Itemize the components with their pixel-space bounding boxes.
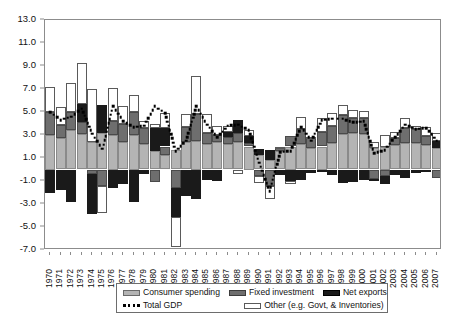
gdp-line-dot	[107, 122, 110, 125]
gdp-line-layer	[45, 20, 440, 248]
gdp-line-dot	[83, 114, 86, 117]
x-axis-tick-mark	[101, 252, 102, 255]
gdp-line-dot	[201, 116, 204, 119]
gdp-line-dot	[199, 112, 202, 115]
gdp-line-dot	[294, 138, 297, 141]
gdp-line-dot	[315, 129, 318, 132]
x-axis-tick-mark	[436, 252, 437, 255]
gdp-line-dot	[129, 124, 132, 127]
gdp-line-dot	[147, 117, 150, 120]
gdp-line-dot	[86, 122, 89, 125]
gdp-line-dot	[186, 136, 189, 139]
gdp-line-dot	[157, 107, 160, 110]
legend-row-1: Consumer spending Fixed investment Net e…	[121, 286, 383, 299]
legend-item-total-gdp: Total GDP	[123, 301, 182, 310]
gdp-line-dot	[296, 134, 299, 137]
gdp-line-dot	[188, 128, 191, 131]
gdp-line-dot	[348, 120, 351, 123]
gdp-line-dot	[415, 128, 418, 131]
gdp-line-dot	[171, 137, 174, 140]
legend-label-other: Other (e.g. Govt, & Inventories)	[264, 301, 383, 310]
gdp-line-dot	[111, 109, 114, 112]
gdp-line-dot	[143, 125, 146, 128]
gdp-line-dot	[302, 129, 305, 132]
fixed-investment-swatch-icon	[229, 290, 246, 296]
x-axis-tick-mark	[49, 252, 50, 255]
gdp-line-dot	[380, 150, 383, 153]
gdp-line-dot	[167, 125, 170, 128]
gdp-line-dot	[341, 118, 344, 121]
x-axis-tick-mark	[363, 252, 364, 255]
gdp-line-dot	[182, 142, 185, 145]
x-axis-tick-mark	[415, 252, 416, 255]
gdp-line-dot	[345, 119, 348, 122]
gdp-line-dot	[408, 125, 411, 128]
gdp-line-dot	[133, 126, 136, 129]
gdp-line-dot	[435, 139, 438, 142]
gdp-line-dot	[126, 122, 129, 125]
gdp-line-dot	[153, 105, 156, 108]
gdp-line-dot	[244, 127, 247, 130]
gdp-line-dot	[278, 155, 281, 158]
x-axis-tick-mark	[70, 252, 71, 255]
y-axis-tick-label: 1.0	[0, 152, 36, 162]
gdp-line-dot	[402, 127, 405, 130]
gdp-line-dot	[418, 128, 421, 131]
gdp-line-dot	[310, 139, 313, 142]
gdp-line-dot	[255, 153, 258, 156]
gdp-line-dot	[404, 123, 407, 126]
gdp-line-dot	[221, 130, 224, 133]
gdp-line-dot	[139, 125, 142, 128]
gdp-line-dot	[273, 174, 276, 177]
y-axis-tick-label: 3.0	[0, 129, 36, 139]
legend-item-net-exports: Net exports	[323, 288, 387, 297]
gdp-line-dot	[268, 190, 271, 193]
gdp-line-dot	[224, 127, 227, 130]
gdp-line-dot	[194, 109, 197, 112]
gdp-line-dot	[275, 167, 278, 170]
gdp-line-dot	[362, 120, 365, 123]
x-axis-tick-mark	[195, 252, 196, 255]
x-axis-tick-mark	[248, 252, 249, 255]
x-axis-tick-mark	[352, 252, 353, 255]
gdp-line-dot	[422, 127, 425, 130]
gdp-line-dot	[216, 136, 219, 139]
gdp-line-dot	[151, 109, 154, 112]
legend-item-fixed-investment: Fixed investment	[229, 288, 314, 297]
gdp-line-dot	[136, 125, 139, 128]
gdp-line-dot	[104, 135, 107, 138]
gdp-line-dot	[373, 152, 376, 155]
gdp-line-dot	[106, 126, 109, 129]
y-axis-tick-label: -1.0	[0, 175, 36, 185]
y-axis-tick-label: 5.0	[0, 106, 36, 116]
gdp-line-dot	[66, 116, 69, 119]
x-axis-tick-label: 1973	[76, 269, 85, 288]
gdp-line-dot	[293, 142, 296, 145]
gdp-line-dot	[276, 163, 279, 166]
gdp-line-dot	[99, 144, 102, 147]
gdp-line-dot	[383, 149, 386, 152]
gdp-line-dot	[376, 151, 379, 154]
gdp-line-dot	[277, 159, 280, 162]
x-axis-tick-mark	[404, 252, 405, 255]
y-axis-tick-label: 13.0	[0, 14, 36, 24]
x-axis-tick-label: 2005	[410, 269, 419, 288]
x-axis-tick-label: 1970	[45, 269, 54, 288]
x-axis-tick-mark	[122, 252, 123, 255]
gdp-line-dot	[119, 116, 122, 119]
gdp-line-dot	[63, 118, 66, 121]
gdp-line-dot	[264, 178, 267, 181]
gdp-line-dot	[240, 125, 243, 128]
gdp-line-dot	[289, 150, 292, 153]
x-axis-tick-mark	[60, 252, 61, 255]
gdp-line-dot	[249, 133, 252, 136]
other-swatch-icon	[244, 303, 261, 309]
gdp-line-dot	[365, 128, 368, 131]
gdp-line-dot	[172, 141, 175, 144]
plot-area	[44, 19, 441, 249]
gdp-line-dot	[274, 171, 277, 174]
gdp-line-dot	[262, 174, 265, 177]
x-axis-tick-mark	[425, 252, 426, 255]
gdp-line-dot	[265, 182, 268, 185]
x-axis-tick-mark	[258, 252, 259, 255]
